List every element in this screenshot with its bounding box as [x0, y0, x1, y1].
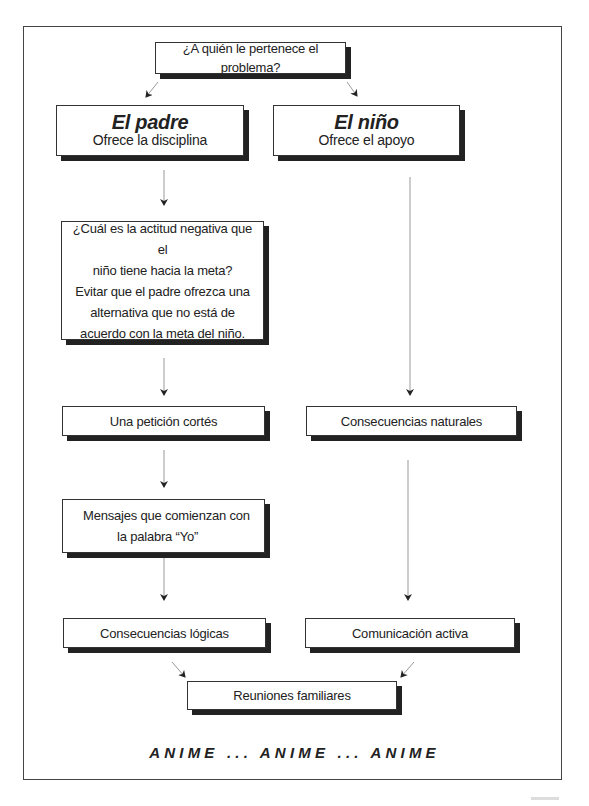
padre-title: El padre	[112, 112, 189, 132]
consecuencias-naturales-label: Consecuencias naturales	[341, 412, 482, 431]
scan-mark	[531, 797, 559, 800]
mensajes-yo-box: Mensajes que comienzan con la palabra “Y…	[62, 499, 265, 553]
reuniones-familiares-box: Reuniones familiares	[187, 681, 397, 710]
consecuencias-logicas-box: Consecuencias lógicas	[63, 618, 266, 648]
peticion-cortes-label: Una petición cortés	[110, 412, 217, 431]
question-line-2: niño tiene hacia la meta?	[93, 260, 233, 281]
question-line-5: acuerdo con la meta del niño.	[80, 323, 245, 344]
mensajes-line-1: Mensajes que comienzan con	[83, 505, 250, 526]
peticion-cortes-box: Una petición cortés	[62, 406, 265, 436]
reuniones-familiares-label: Reuniones familiares	[233, 686, 350, 705]
consecuencias-naturales-box: Consecuencias naturales	[306, 406, 517, 436]
root-question-box: ¿A quién le pertenece el problema?	[155, 42, 346, 74]
nino-subtitle: Ofrece el apoyo	[319, 132, 415, 149]
motto-anime: ANIME ... ANIME ... ANIME	[0, 744, 589, 761]
comunicacion-activa-label: Comunicación activa	[352, 624, 468, 643]
actitud-negativa-box: ¿Cuál es la actitud negativa que el niño…	[61, 221, 264, 340]
nino-branch-box: El niño Ofrece el apoyo	[273, 105, 460, 156]
mensajes-line-2: la palabra “Yo”	[83, 526, 198, 547]
comunicacion-activa-box: Comunicación activa	[305, 618, 515, 648]
consecuencias-logicas-label: Consecuencias lógicas	[100, 624, 229, 643]
padre-branch-box: El padre Ofrece la disciplina	[56, 105, 244, 156]
padre-subtitle: Ofrece la disciplina	[93, 132, 207, 149]
question-line-3: Evitar que el padre ofrezca una	[75, 281, 249, 302]
root-question-label: ¿A quién le pertenece el problema?	[156, 39, 345, 77]
question-line-4: alternativa que no está de	[90, 302, 234, 323]
question-line-1: ¿Cuál es la actitud negativa que el	[68, 218, 257, 260]
nino-title: El niño	[334, 112, 399, 132]
